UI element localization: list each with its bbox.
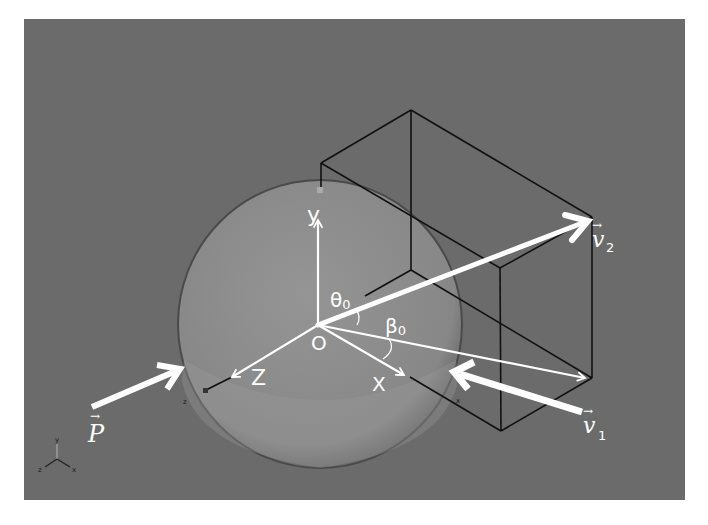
z-tick-label: z (183, 398, 187, 406)
svg-text:x: x (72, 466, 76, 474)
origin-label: O (311, 331, 327, 355)
svg-text:z: z (38, 466, 42, 474)
svg-text:v: v (592, 227, 605, 252)
z-axis-label: Z (251, 365, 266, 390)
svg-text:v: v (583, 413, 596, 438)
z-axis-marker (203, 388, 208, 393)
svg-text:1: 1 (598, 428, 606, 443)
svg-text:2: 2 (606, 240, 614, 255)
x-axis-label: X (372, 372, 386, 396)
y-axis-label: y (307, 202, 320, 227)
diagram-canvas: y O Z X θ0 β0 → v 2 → v 1 → P z x y z x (0, 0, 708, 525)
svg-text:y: y (55, 436, 59, 444)
x-tick-label: x (456, 397, 460, 405)
svg-text:P: P (87, 420, 105, 448)
y-axis-marker (317, 187, 323, 193)
